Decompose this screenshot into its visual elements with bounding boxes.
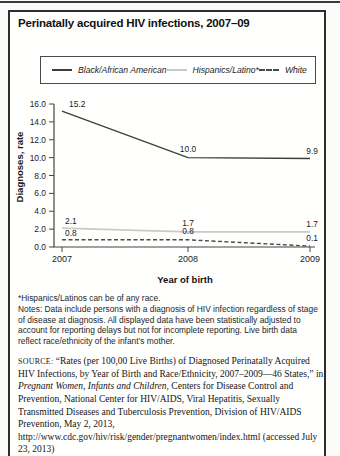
legend-label: Hispanics/Latino* — [193, 65, 259, 75]
data-label: 0.1 — [306, 233, 318, 243]
figure-card: Perinatally acquired HIV infections, 200… — [8, 10, 326, 456]
legend-label: Black/African American — [78, 65, 167, 75]
source-citation: SOURCE: “Rates (per 100,00 Live Births) … — [18, 355, 324, 456]
data-label: 9.9 — [306, 146, 318, 156]
source-label: SOURCE: — [18, 357, 53, 366]
data-label: 1.7 — [306, 219, 318, 229]
data-label: 0.8 — [65, 228, 77, 238]
footnote-notes: Notes: Data include persons with a diagn… — [18, 304, 320, 347]
svg-text:0.0: 0.0 — [34, 242, 46, 252]
footnote-block: *Hispanics/Latinos can be of any race. N… — [18, 293, 320, 347]
legend-line-sample-solid-gray — [167, 69, 187, 71]
source-publication-title: Pregnant Women, Infants and Children — [18, 381, 167, 391]
source-text: “Rates (per 100,00 Live Births) of Diagn… — [18, 356, 323, 379]
figure-page: Perinatally acquired HIV infections, 200… — [0, 0, 340, 456]
svg-text:8.0: 8.0 — [34, 171, 46, 181]
source-text: , Centers for Disease Control and Preven… — [18, 381, 317, 454]
svg-text:12.0: 12.0 — [30, 135, 47, 145]
series-line-0: 15.210.09.9 — [62, 99, 318, 158]
svg-text:10.0: 10.0 — [30, 153, 47, 163]
data-label: 2.1 — [65, 216, 77, 226]
chart-legend: Black/African American Hispanics/Latino*… — [40, 56, 316, 84]
data-label: 0.8 — [182, 226, 194, 236]
svg-text:6.0: 6.0 — [34, 188, 46, 198]
data-label: 10.0 — [180, 144, 197, 154]
svg-text:2.0: 2.0 — [34, 224, 46, 234]
legend-line-sample-solid-dark — [52, 69, 72, 71]
axis-ticks — [49, 104, 310, 252]
legend-label: White — [285, 65, 307, 75]
svg-text:14.0: 14.0 — [30, 117, 47, 127]
x-axis-title: Year of birth — [157, 274, 213, 285]
page-top-rule — [0, 1, 340, 3]
svg-text:16.0: 16.0 — [30, 99, 47, 109]
y-tick-labels: 0.02.04.06.08.010.012.014.016.0 — [30, 99, 47, 252]
legend-item-hispanics-latino: Hispanics/Latino* — [167, 65, 259, 75]
line-chart: 0.02.04.06.08.010.012.014.016.0200720082… — [12, 94, 324, 290]
x-tick-labels: 200720082009 — [52, 254, 320, 264]
svg-text:2008: 2008 — [178, 254, 198, 264]
legend-item-black-african-american: Black/African American — [52, 65, 167, 75]
data-label: 15.2 — [69, 99, 86, 109]
svg-text:2007: 2007 — [52, 254, 72, 264]
footnote-asterisk: *Hispanics/Latinos can be of any race. — [18, 293, 320, 304]
legend-line-sample-dashed — [259, 69, 279, 71]
svg-text:4.0: 4.0 — [34, 206, 46, 216]
legend-item-white: White — [259, 65, 307, 75]
figure-title: Perinatally acquired HIV infections, 200… — [18, 17, 318, 29]
svg-text:2009: 2009 — [300, 254, 320, 264]
